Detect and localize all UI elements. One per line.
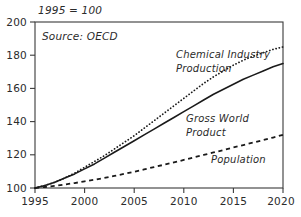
- x-axis-label-2010: 2010: [170, 195, 198, 207]
- source-note: Source: OECD: [42, 30, 118, 42]
- annotation-population: Population: [211, 154, 266, 165]
- x-axis-label-2015: 2015: [220, 195, 248, 207]
- annotation-chemical-line2: Production: [176, 63, 232, 74]
- x-axis-label-2000: 2000: [71, 195, 99, 207]
- y-axis-label-140: 140: [6, 115, 27, 127]
- y-axis-label-120: 120: [6, 148, 27, 160]
- x-axis-label-1995: 1995: [21, 195, 49, 207]
- x-axis-label-2020: 2020: [267, 195, 295, 207]
- x-axis-ticks: [35, 188, 283, 193]
- y-axis-ticks: [30, 22, 35, 188]
- annotation-chemical-line1: Chemical Industry: [176, 49, 271, 60]
- y-axis-label-100: 100: [6, 182, 27, 194]
- y-axis-label-180: 180: [6, 49, 27, 61]
- y-axis-label-160: 160: [6, 82, 27, 94]
- y-axis-label-200: 200: [6, 16, 27, 28]
- annotation-gwp-line1: Gross World: [186, 113, 249, 124]
- chart-container: 100 120 140 160 180 200 1995 2000 2005 2…: [0, 0, 301, 217]
- series-line-gross-world-product: [35, 64, 283, 189]
- x-axis-label-2005: 2005: [120, 195, 148, 207]
- index-note: 1995 = 100: [38, 4, 102, 16]
- line-chart: 100 120 140 160 180 200 1995 2000 2005 2…: [0, 0, 301, 217]
- annotation-gwp-line2: Product: [186, 127, 227, 138]
